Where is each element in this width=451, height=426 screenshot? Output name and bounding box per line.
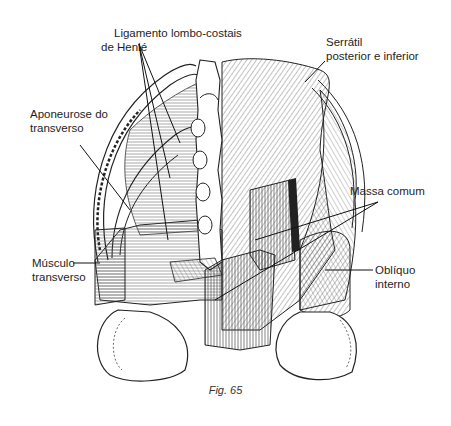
label-aponeurose-do-transverso: Aponeurose do transverso: [30, 107, 108, 135]
label-massa-comum: Massa comum: [350, 184, 425, 198]
lumbar-muscles-illustration: [0, 0, 451, 426]
anatomical-figure: Ligamento lombo-costais de Henlé Serráti…: [0, 0, 451, 426]
label-musculo-transverso: Músculo transverso: [32, 256, 86, 284]
label-ligamento-lombo-costais: Ligamento lombo-costais de Henlé: [101, 26, 242, 54]
figure-caption: Fig. 65: [0, 384, 451, 396]
label-obliquo-interno: Oblíquo interno: [375, 263, 415, 291]
label-serratil-posterior-inferior: Serrátil posterior e inferior: [326, 35, 419, 63]
